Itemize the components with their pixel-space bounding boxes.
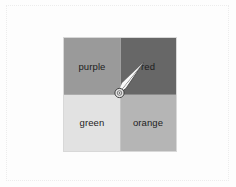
quadrant-purple[interactable]: purple: [64, 38, 120, 95]
quadrant-orange[interactable]: orange: [120, 95, 176, 152]
quadrant-label-orange: orange: [133, 118, 163, 128]
quadrant-red[interactable]: red: [120, 38, 176, 95]
quadrant-label-green: green: [80, 118, 105, 128]
quadrant-green[interactable]: green: [64, 95, 120, 152]
quadrant-label-red: red: [141, 62, 155, 72]
screenshot-canvas: purple red green orange: [0, 0, 236, 187]
color-quadrant-grid[interactable]: purple red green orange: [63, 37, 177, 152]
quadrant-label-purple: purple: [78, 62, 105, 72]
